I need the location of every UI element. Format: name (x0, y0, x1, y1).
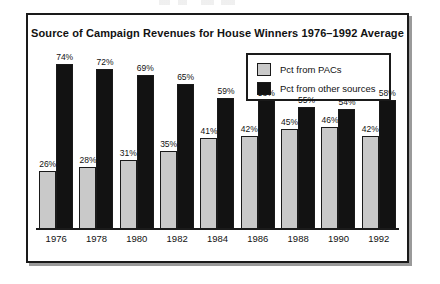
bar-group: 45%55% (278, 55, 318, 229)
bar-value-label: 58% (258, 88, 275, 98)
bar-rect (379, 100, 396, 229)
bar-value-label: 35% (160, 139, 177, 149)
bar-value-label: 72% (96, 57, 113, 67)
bar-rect (241, 136, 258, 229)
x-tick-label: 1990 (318, 233, 358, 251)
bar-rect (338, 109, 355, 229)
bar-pacs: 42% (362, 55, 379, 229)
bar-other-sources: 69% (137, 55, 154, 229)
bar-rect (298, 107, 315, 229)
bar-pacs: 42% (241, 55, 258, 229)
bar-value-label: 55% (298, 95, 315, 105)
bar-pacs: 26% (39, 55, 56, 229)
bar-group: 26%74% (36, 55, 76, 229)
bar-other-sources: 65% (177, 55, 194, 229)
cropped-text-remnant (152, 0, 264, 5)
x-tick-label: 1988 (278, 233, 318, 251)
bar-groups: 26%74%28%72%31%69%35%65%41%59%42%58%45%5… (36, 55, 399, 229)
bar-group: 35%65% (157, 55, 197, 229)
bar-rect (56, 64, 73, 229)
chart-card: Source of Campaign Revenues for House Wi… (26, 13, 409, 263)
bar-rect (200, 138, 217, 229)
bar-rect (217, 98, 234, 229)
bar-group: 31%69% (117, 55, 157, 229)
bar-value-label: 58% (379, 88, 396, 98)
bar-pacs: 31% (120, 55, 137, 229)
bar-pacs: 35% (160, 55, 177, 229)
bar-group: 46%54% (318, 55, 358, 229)
bar-value-label: 28% (79, 155, 96, 165)
bar-other-sources: 55% (298, 55, 315, 229)
bar-group: 42%58% (359, 55, 399, 229)
bar-group: 28%72% (76, 55, 116, 229)
x-tick-label: 1986 (238, 233, 278, 251)
bar-rect (79, 167, 96, 229)
bar-value-label: 45% (281, 117, 298, 127)
bar-pacs: 28% (79, 55, 96, 229)
x-tick-label: 1982 (157, 233, 197, 251)
bar-value-label: 74% (56, 52, 73, 62)
bar-value-label: 46% (321, 115, 338, 125)
x-tick-label: 1980 (117, 233, 157, 251)
x-tick-label: 1984 (197, 233, 237, 251)
x-axis-line (36, 228, 399, 230)
bar-value-label: 65% (177, 72, 194, 82)
bar-rect (96, 69, 113, 229)
bar-value-label: 26% (39, 159, 56, 169)
bar-rect (362, 136, 379, 229)
bar-group: 41%59% (197, 55, 237, 229)
x-tick-label: 1976 (36, 233, 76, 251)
x-axis-tick-labels: 197619781980198219841986198819901992 (36, 233, 399, 251)
bar-rect (160, 151, 177, 229)
bar-rect (258, 100, 275, 229)
bar-other-sources: 58% (258, 55, 275, 229)
bar-pacs: 45% (281, 55, 298, 229)
bar-value-label: 59% (217, 86, 234, 96)
bar-group: 42%58% (238, 55, 278, 229)
bar-rect (39, 171, 56, 229)
bar-other-sources: 74% (56, 55, 73, 229)
bar-value-label: 41% (200, 126, 217, 136)
bar-other-sources: 54% (338, 55, 355, 229)
chart-title: Source of Campaign Revenues for House Wi… (28, 27, 407, 39)
plot-area: 26%74%28%72%31%69%35%65%41%59%42%58%45%5… (36, 55, 399, 229)
bar-value-label: 31% (120, 148, 137, 158)
x-tick-label: 1992 (359, 233, 399, 251)
bar-rect (120, 160, 137, 229)
bar-other-sources: 58% (379, 55, 396, 229)
bar-value-label: 54% (338, 97, 355, 107)
bar-rect (177, 84, 194, 229)
bar-rect (321, 127, 338, 229)
bar-rect (281, 129, 298, 229)
bar-pacs: 46% (321, 55, 338, 229)
bar-other-sources: 59% (217, 55, 234, 229)
bar-other-sources: 72% (96, 55, 113, 229)
bar-pacs: 41% (200, 55, 217, 229)
bar-value-label: 42% (241, 124, 258, 134)
bar-rect (137, 75, 154, 229)
x-tick-label: 1978 (76, 233, 116, 251)
bar-value-label: 69% (137, 63, 154, 73)
bar-value-label: 42% (362, 124, 379, 134)
